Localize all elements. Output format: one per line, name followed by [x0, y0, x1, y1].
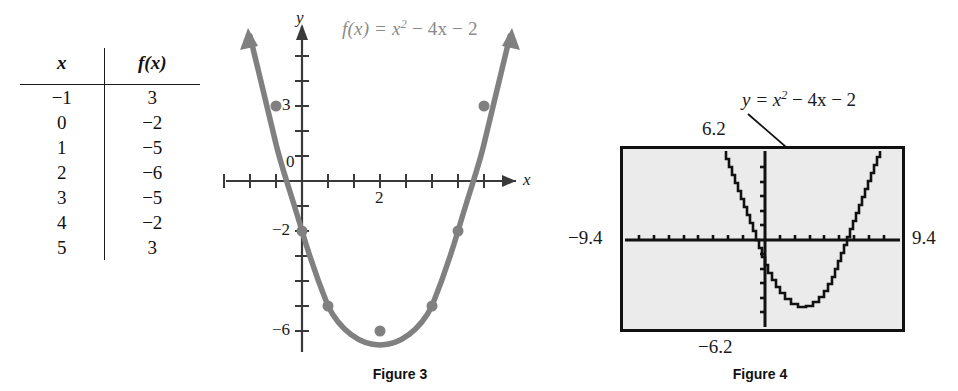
- function-value-table: x f(x) −1 3 0 −2 1 −5 2: [20, 48, 200, 260]
- data-point: [479, 101, 490, 112]
- calculator-screen: [620, 146, 905, 332]
- formula-tail: − 4x − 2: [407, 18, 478, 39]
- formula-base: f(x) = x: [342, 18, 401, 39]
- data-point: [453, 226, 464, 237]
- column-header-fx: f(x): [104, 48, 200, 85]
- data-point: [271, 101, 282, 112]
- column-header-x: x: [20, 48, 104, 85]
- window-ymin-label: −6.2: [698, 336, 732, 358]
- table-header-row: x f(x): [20, 48, 200, 85]
- x-axis-arrow: [502, 175, 516, 187]
- y-tick-label-neg2: −2: [272, 220, 290, 240]
- window-xmax-label: 9.4: [912, 227, 936, 249]
- data-point: [427, 301, 438, 312]
- x-tick-label-2: 2: [375, 188, 384, 208]
- y-tick-label-neg6: −6: [272, 320, 290, 340]
- figure-3-caption: Figure 3: [320, 366, 480, 382]
- cell-x: 2: [20, 160, 104, 185]
- table-row: 1 −5: [20, 135, 200, 160]
- table-body: −1 3 0 −2 1 −5 2 −6 3 −5: [20, 85, 200, 261]
- table-row: 0 −2: [20, 110, 200, 135]
- table-head: x f(x): [20, 48, 200, 85]
- y-axis-label: y: [296, 8, 304, 28]
- cell-fx: −2: [104, 110, 200, 135]
- data-point: [323, 301, 334, 312]
- table-row: 3 −5: [20, 185, 200, 210]
- data-point: [297, 226, 308, 237]
- cell-fx: −6: [104, 160, 200, 185]
- cell-x: −1: [20, 85, 104, 111]
- figure-4-calculator: y = x2 − 4x − 2 6.2 −9.4 9.4 −6.2: [560, 0, 958, 360]
- figure3-formula-label: f(x) = x2 − 4x − 2: [342, 17, 478, 40]
- window-xmin-label: −9.4: [568, 227, 602, 249]
- cell-x: 1: [20, 135, 104, 160]
- cell-x: 3: [20, 185, 104, 210]
- figure-3-graph: f(x) = x2 − 4x − 2: [220, 0, 550, 360]
- table: x f(x) −1 3 0 −2 1 −5 2: [20, 48, 200, 260]
- table-row: 4 −2: [20, 210, 200, 235]
- table-row: −1 3: [20, 85, 200, 111]
- cell-x: 5: [20, 235, 104, 260]
- window-ymax-label: 6.2: [702, 118, 726, 140]
- x-axis-label: x: [523, 170, 531, 190]
- data-points: [271, 101, 490, 337]
- calc-parabola-curve: [726, 151, 880, 307]
- table-row: 2 −6: [20, 160, 200, 185]
- origin-label: 0: [286, 152, 295, 172]
- figure-page: x f(x) −1 3 0 −2 1 −5 2: [0, 0, 958, 391]
- cell-fx: 3: [104, 235, 200, 260]
- calculator-plot: [623, 149, 902, 329]
- cell-x: 0: [20, 110, 104, 135]
- data-point: [375, 326, 386, 337]
- cell-fx: 3: [104, 85, 200, 111]
- cell-fx: −5: [104, 135, 200, 160]
- cell-x: 4: [20, 210, 104, 235]
- cell-fx: −2: [104, 210, 200, 235]
- table-row: 5 3: [20, 235, 200, 260]
- y-tick-label-3: 3: [282, 95, 291, 115]
- figure-4-caption: Figure 4: [680, 366, 840, 382]
- cell-fx: −5: [104, 185, 200, 210]
- figure3-plot: [220, 0, 550, 360]
